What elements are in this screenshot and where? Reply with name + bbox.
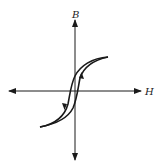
h-axis-label: H bbox=[145, 87, 154, 97]
b-axis-label: B bbox=[72, 10, 79, 20]
hysteresis-diagram bbox=[0, 0, 163, 166]
up-direction-arrow-icon bbox=[79, 72, 84, 79]
hysteresis-ascending-branch bbox=[40, 57, 108, 127]
hysteresis-descending-branch bbox=[40, 57, 108, 127]
